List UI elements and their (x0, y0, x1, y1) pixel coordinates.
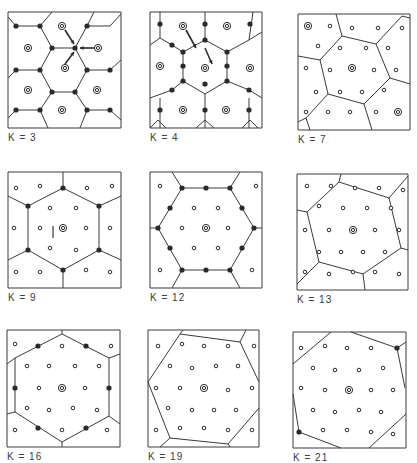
solid-dot-icon (49, 45, 54, 50)
open-dot-icon (226, 344, 230, 348)
open-dot-icon (60, 428, 64, 432)
open-dot-icon (212, 408, 216, 412)
solid-dot-icon (35, 425, 40, 430)
open-dot-icon (97, 364, 101, 368)
open-dot-icon (317, 204, 321, 208)
open-dot-icon (379, 410, 383, 414)
central-place-icon (156, 62, 163, 69)
open-dot-icon (254, 184, 258, 188)
solid-dot-icon (239, 205, 244, 210)
open-dot-icon (345, 346, 349, 350)
open-dot-icon (74, 206, 78, 210)
open-dot-icon (226, 226, 230, 230)
boundary-line (205, 40, 227, 52)
solid-dot-icon (167, 205, 172, 210)
open-dot-icon (73, 364, 77, 368)
open-dot-icon (357, 368, 361, 372)
solid-dot-icon (296, 429, 301, 434)
boundary-line (339, 174, 341, 182)
boundary-line (397, 348, 405, 388)
open-dot-icon (374, 110, 378, 114)
boundary-line (183, 81, 205, 94)
solid-dot-icon (227, 185, 232, 190)
central-place-icon (246, 64, 253, 71)
open-dot-icon (234, 408, 238, 412)
solid-dot-icon (25, 203, 30, 208)
open-dot-icon (299, 346, 303, 350)
open-dot-icon (190, 366, 194, 370)
boundary-line (40, 26, 52, 48)
solid-dot-icon (107, 67, 112, 72)
open-dot-icon (351, 270, 355, 274)
open-dot-icon (339, 250, 343, 254)
open-dot-icon (311, 408, 315, 412)
boundary-line (75, 92, 87, 110)
solid-dot-icon (60, 267, 65, 272)
open-dot-icon (108, 226, 112, 230)
boundary-line (63, 250, 99, 270)
open-dot-icon (37, 386, 41, 390)
boundary-line (28, 250, 63, 270)
open-dot-icon (304, 110, 308, 114)
boundary-line (110, 14, 121, 26)
open-dot-icon (327, 272, 331, 276)
solid-dot-icon (180, 63, 185, 68)
open-dot-icon (305, 184, 309, 188)
panel-k19 (148, 330, 259, 447)
boundary-line (8, 250, 28, 260)
open-dot-icon (345, 428, 349, 432)
boundary-line (351, 332, 397, 348)
central-place-icon (223, 22, 230, 29)
open-dot-icon (178, 426, 182, 430)
solid-dot-icon (107, 107, 112, 112)
boundary-line (172, 270, 182, 288)
open-dot-icon (391, 388, 395, 392)
open-dot-icon (383, 250, 387, 254)
open-dot-icon (364, 46, 368, 50)
solid-dot-icon (37, 107, 42, 112)
boundary-line (240, 342, 259, 382)
k-value-label: K = 9 (8, 292, 37, 303)
open-dot-icon (372, 68, 376, 72)
boundary-line (230, 172, 240, 188)
solid-dot-icon (169, 87, 174, 92)
solid-dot-icon (239, 245, 244, 250)
boundary-line (390, 78, 410, 84)
solid-dot-icon (203, 185, 208, 190)
open-dot-icon (158, 268, 162, 272)
open-dot-icon (382, 88, 386, 92)
boundary-line (109, 354, 120, 358)
boundary-line (172, 172, 182, 188)
solid-dot-icon (227, 267, 232, 272)
panel-k16 (7, 330, 120, 447)
boundary-line (150, 38, 160, 45)
central-place-icon (24, 86, 31, 93)
boundary-line (297, 262, 319, 284)
central-place-icon (348, 64, 355, 71)
open-dot-icon (326, 110, 330, 114)
open-dot-icon (202, 426, 206, 430)
k-value-label: K = 16 (7, 451, 42, 462)
open-dot-icon (360, 90, 364, 94)
solid-dot-icon (157, 21, 162, 26)
solid-dot-icon (96, 247, 101, 252)
central-place-icon (304, 22, 311, 29)
panel-k13 (297, 174, 408, 290)
open-dot-icon (397, 272, 401, 276)
boundary-line (240, 330, 246, 342)
k-value-label: K = 7 (298, 134, 327, 145)
open-dot-icon (317, 250, 321, 254)
open-dot-icon (13, 342, 17, 346)
panel-k3 (8, 12, 121, 128)
open-dot-icon (333, 368, 337, 372)
boundary-line (158, 120, 166, 128)
open-dot-icon (386, 46, 390, 50)
boundary-line (227, 40, 249, 52)
solid-dot-icon (83, 425, 88, 430)
boundary-line (205, 81, 227, 94)
open-dot-icon (353, 186, 357, 190)
solid-dot-icon (179, 267, 184, 272)
lattice-diagram (8, 12, 121, 128)
solid-dot-icon (169, 42, 174, 47)
boundary-line (75, 70, 87, 92)
